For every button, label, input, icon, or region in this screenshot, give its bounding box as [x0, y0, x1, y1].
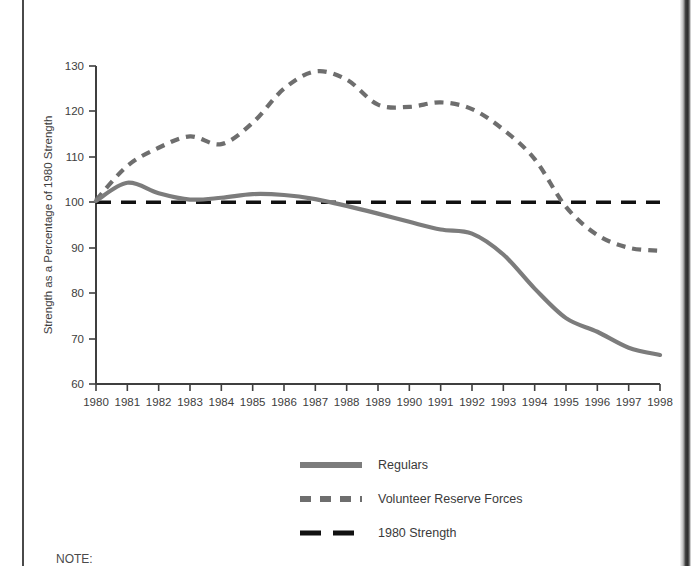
series-line-volunteer-reserve-forces [96, 71, 660, 251]
line-chart-svg: 130 120 110 100 90 80 70 60 198019811982… [0, 0, 691, 430]
series-line-regulars [96, 183, 660, 355]
legend-item-volunteer-reserve-forces: Volunteer Reserve Forces [300, 482, 640, 516]
x-tick-label: 1982 [146, 396, 172, 408]
legend-swatch-solid-gray-line [300, 456, 362, 474]
x-tick-label: 1987 [303, 396, 329, 408]
legend-label-volunteer-reserve-forces: Volunteer Reserve Forces [378, 492, 523, 506]
y-tick-label: 120 [65, 105, 84, 117]
y-axis-title: Strength as a Percentage of 1980 Strengt… [42, 116, 54, 335]
x-axis-ticks [96, 384, 660, 391]
x-tick-label: 1984 [209, 396, 235, 408]
x-tick-label: 1990 [397, 396, 423, 408]
x-tick-label: 1992 [459, 396, 485, 408]
y-tick-label: 80 [71, 287, 84, 299]
page-canvas: 130 120 110 100 90 80 70 60 198019811982… [0, 0, 691, 566]
x-tick-label: 1986 [271, 396, 297, 408]
note-label: NOTE: [56, 552, 93, 566]
x-tick-label: 1995 [553, 396, 579, 408]
x-tick-label: 1996 [585, 396, 611, 408]
legend-swatch-dashed-gray-line [300, 490, 362, 508]
x-tick-label: 1980 [83, 396, 109, 408]
legend-item-regulars: Regulars [300, 448, 640, 482]
y-axis-ticks [89, 66, 96, 384]
legend-label-regulars: Regulars [378, 458, 428, 472]
legend-swatch-dashed-black-line [300, 524, 362, 542]
y-tick-label: 100 [65, 196, 84, 208]
x-tick-label: 1985 [240, 396, 266, 408]
legend-item-1980-strength: 1980 Strength [300, 516, 640, 550]
x-tick-label: 1988 [334, 396, 360, 408]
x-tick-label: 1993 [491, 396, 517, 408]
legend-label-1980-strength: 1980 Strength [378, 526, 457, 540]
x-tick-label: 1997 [616, 396, 642, 408]
y-tick-label: 110 [66, 151, 84, 163]
chart-legend: Regulars Volunteer Reserve Forces 1980 S… [300, 448, 640, 550]
x-tick-label: 1991 [428, 396, 454, 408]
x-tick-label: 1998 [647, 396, 673, 408]
x-tick-label: 1983 [177, 396, 203, 408]
y-axis-tick-labels: 130 120 110 100 90 80 70 60 [65, 60, 84, 390]
chart-figure: 130 120 110 100 90 80 70 60 198019811982… [0, 0, 691, 430]
y-tick-label: 130 [65, 60, 84, 72]
y-tick-label: 60 [71, 378, 84, 390]
x-tick-label: 1989 [365, 396, 391, 408]
x-tick-label: 1981 [115, 396, 141, 408]
x-tick-label: 1994 [522, 396, 548, 408]
y-tick-label: 70 [71, 333, 84, 345]
x-axis-tick-labels: 1980198119821983198419851986198719881989… [83, 396, 673, 408]
y-tick-label: 90 [71, 242, 84, 254]
